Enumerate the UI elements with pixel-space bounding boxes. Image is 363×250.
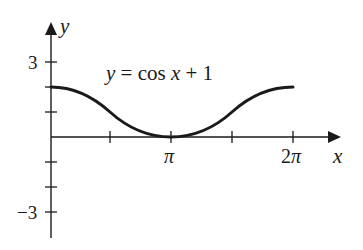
x-tick-label-pi: π — [164, 145, 175, 167]
x-tick-label-2pi-pi: π — [291, 145, 302, 167]
cosine-curve — [51, 87, 293, 137]
equation-y: y — [104, 61, 116, 85]
x-axis-label: x — [332, 144, 343, 168]
y-tick-label-3: 3 — [28, 52, 38, 73]
x-axis-arrow-icon — [328, 131, 341, 143]
cosine-graph: y x 3 −3 π 2π y = cos x + 1 — [0, 0, 363, 250]
y-tick-label-neg3: −3 — [17, 202, 37, 223]
equation-eq: = cos — [115, 61, 171, 85]
x-tick-label-2pi: 2π — [281, 145, 302, 167]
equation-annotation: y = cos x + 1 — [104, 61, 213, 85]
y-axis-arrow-icon — [45, 22, 57, 35]
equation-rest: + 1 — [180, 61, 213, 85]
x-tick-label-2pi-num: 2 — [281, 145, 291, 167]
y-axis-label: y — [58, 14, 70, 38]
